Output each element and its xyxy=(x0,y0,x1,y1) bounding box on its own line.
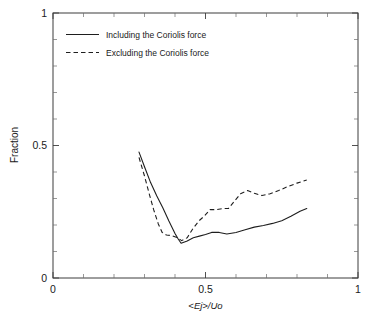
y-axis-title: Fraction xyxy=(9,127,20,163)
y-tick-label-bottom: 0 xyxy=(41,272,47,284)
series-line-including-coriolis xyxy=(139,152,307,243)
series-line-excluding-coriolis xyxy=(139,157,307,240)
y-tick-label-mid: 0.5 xyxy=(32,139,47,151)
y-tick-label-top: 1 xyxy=(41,7,47,19)
legend-label-excluding: Excluding the Coriolis force xyxy=(106,48,209,58)
x-axis-title: <Ej>/Uo xyxy=(188,300,222,311)
chart-figure: 1 0.5 0 0 0.5 1 Fraction <Ej>/Uo Includi… xyxy=(0,0,369,319)
x-tick-label-mid: 0.5 xyxy=(198,283,213,295)
x-tick-label-right: 1 xyxy=(355,283,361,295)
x-tick-label-left: 0 xyxy=(50,283,56,295)
chart-legend: Including the Coriolis force Excluding t… xyxy=(66,30,209,58)
chart-svg: 1 0.5 0 0 0.5 1 Fraction <Ej>/Uo Includi… xyxy=(0,0,369,319)
legend-label-including: Including the Coriolis force xyxy=(106,30,206,40)
